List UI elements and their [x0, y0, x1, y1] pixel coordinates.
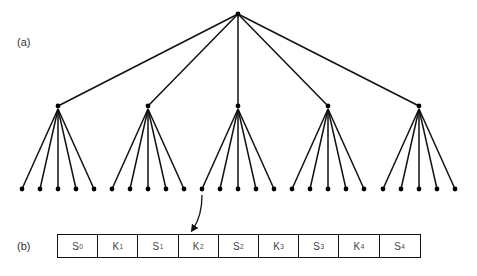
tree-edge	[202, 109, 238, 189]
tree-edge	[238, 109, 256, 189]
leaf-node	[308, 187, 313, 192]
tree-edge	[40, 109, 58, 189]
root-node	[236, 12, 241, 17]
array-cell: K2	[179, 235, 219, 257]
array-cell: K3	[259, 235, 299, 257]
leaf-node	[453, 187, 458, 192]
leaf-node	[326, 187, 331, 192]
leaf-node	[74, 187, 79, 192]
leaf-node	[38, 187, 43, 192]
cell-subscript: 2	[240, 243, 244, 250]
key-array: S0K1S1K2S2K3S3K4S4	[57, 234, 421, 258]
array-cell: S1	[138, 235, 178, 257]
leaf-node	[236, 187, 241, 192]
internal-node	[56, 104, 61, 109]
tree-edge	[112, 109, 148, 189]
leaf-node	[272, 187, 277, 192]
cell-subscript: 2	[200, 243, 204, 250]
leaf-node	[399, 187, 404, 192]
tree-edge	[148, 109, 184, 189]
cell-subscript: 4	[401, 243, 405, 250]
array-cell: S0	[58, 235, 98, 257]
cell-subscript: 3	[320, 243, 324, 250]
tree-edges	[22, 14, 455, 189]
tree-edge	[238, 14, 328, 106]
leaf-node	[92, 187, 97, 192]
leaf-node	[381, 187, 386, 192]
tree-edge	[148, 14, 238, 106]
cell-base: S	[313, 241, 320, 252]
cell-base: K	[193, 241, 200, 252]
leaf-node	[56, 187, 61, 192]
cell-subscript: 1	[160, 243, 164, 250]
leaf-node	[218, 187, 223, 192]
array-cell: K1	[98, 235, 138, 257]
cell-subscript: 4	[361, 243, 365, 250]
leaf-node	[344, 187, 349, 192]
leaf-node	[128, 187, 133, 192]
leaf-node	[200, 187, 205, 192]
tree-edge	[58, 14, 238, 106]
leaf-node	[435, 187, 440, 192]
cell-base: S	[394, 241, 401, 252]
label-b: (b)	[17, 240, 30, 252]
array-cell: S2	[219, 235, 259, 257]
cell-base: S	[153, 241, 160, 252]
tree-edge	[401, 109, 419, 189]
tree-edge	[130, 109, 148, 189]
leaf-node	[254, 187, 259, 192]
tree-edge	[220, 109, 238, 189]
tree-edge	[328, 109, 346, 189]
leaf-node	[290, 187, 295, 192]
internal-node	[326, 104, 331, 109]
tree-edge	[292, 109, 328, 189]
array-cell: S3	[299, 235, 339, 257]
cell-base: K	[273, 241, 280, 252]
label-a: (a)	[17, 36, 30, 48]
tree-edge	[238, 14, 419, 106]
tree-edge	[148, 109, 166, 189]
cell-subscript: 3	[280, 243, 284, 250]
cell-base: S	[72, 241, 79, 252]
leaf-node	[417, 187, 422, 192]
internal-node	[236, 104, 241, 109]
tree-edge	[58, 109, 76, 189]
leaf-node	[110, 187, 115, 192]
tree-edge	[22, 109, 58, 189]
internal-node	[146, 104, 151, 109]
cell-base: S	[233, 241, 240, 252]
tree-edge	[419, 109, 437, 189]
leaf-node	[182, 187, 187, 192]
cell-base: K	[354, 241, 361, 252]
leaf-node	[362, 187, 367, 192]
tree-edge	[238, 109, 274, 189]
internal-node	[417, 104, 422, 109]
leaf-node	[146, 187, 151, 192]
tree-edge	[419, 109, 455, 189]
array-cell: S4	[380, 235, 420, 257]
cell-subscript: 0	[79, 243, 83, 250]
cell-subscript: 1	[120, 243, 124, 250]
tree-edge	[383, 109, 419, 189]
cell-base: K	[112, 241, 119, 252]
leaf-node	[164, 187, 169, 192]
pointer-arrow-icon	[193, 195, 202, 229]
tree-edge	[310, 109, 328, 189]
array-cell: K4	[339, 235, 379, 257]
leaf-node	[20, 187, 25, 192]
tree-edge	[58, 109, 94, 189]
tree-edge	[328, 109, 364, 189]
